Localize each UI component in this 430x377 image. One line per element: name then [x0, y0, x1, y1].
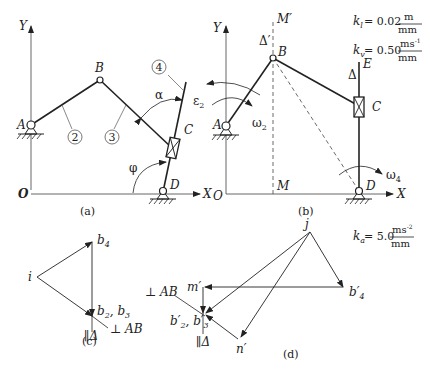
caption-a: (a) — [80, 205, 95, 218]
scale-ka: ka = 5.0 ms-2 mm — [353, 223, 414, 249]
vector-i-b23 — [37, 277, 92, 316]
omega2-arc — [212, 98, 252, 106]
link-bc — [273, 58, 359, 106]
link-3-label: 3 — [109, 131, 116, 144]
delta-label: Δ — [348, 68, 357, 82]
svg-text:= 5.0: = 5.0 — [364, 230, 394, 243]
svg-text:⊥ AB: ⊥ AB — [110, 322, 143, 336]
svg-text:b4: b4 — [97, 233, 110, 249]
svg-text:b′2, b′3: b′2, b′3 — [170, 314, 209, 330]
scale-kl: kl = 0.02 m mm — [353, 11, 422, 35]
svg-text:ms-2: ms-2 — [392, 223, 413, 235]
figure-a: Y X O B A C D 2 — [16, 19, 212, 204]
slider-c — [166, 137, 180, 159]
svg-text:mm: mm — [398, 24, 417, 35]
vector-j-np — [241, 232, 310, 337]
perp-ab-line-d — [174, 295, 205, 316]
point-b-b-label: B — [277, 45, 287, 59]
svg-text:kl: kl — [353, 14, 363, 30]
link-4-label: 4 — [156, 61, 163, 74]
eps-label: ε2 — [193, 94, 204, 110]
omega4-label: ω4 — [386, 168, 401, 184]
x-axis-label: X — [202, 187, 212, 201]
origin-b-label: O — [213, 189, 223, 203]
svg-text:b2, b3: b2, b3 — [97, 304, 130, 320]
svg-text:∥Δ: ∥Δ — [196, 335, 210, 349]
x-axis-b-label: X — [396, 187, 406, 201]
svg-text:= 0.50: = 0.50 — [364, 44, 401, 57]
delta-prime-label: Δ′ — [259, 34, 271, 48]
vector-j-b4p — [310, 232, 343, 287]
svg-text:∥Δ: ∥Δ — [84, 329, 98, 343]
svg-text:j: j — [302, 217, 309, 231]
figure-c-velocity-polygon: i b4 b2, b3 ⊥ AB ∥Δ — [28, 233, 143, 343]
caption-d: (d) — [283, 348, 299, 361]
slider-c-b — [354, 97, 364, 117]
figure-b: Y X O M′ M Δ′ B A C D — [193, 12, 406, 204]
point-e-label: E — [362, 57, 372, 71]
link-2-label: 2 — [72, 131, 79, 144]
phi-label: φ — [129, 161, 137, 175]
joint-b — [97, 77, 103, 83]
y-axis-b-label: Y — [213, 21, 222, 35]
svg-text:ms-1: ms-1 — [400, 37, 420, 49]
svg-text:m: m — [404, 11, 414, 22]
vector-j-b23p — [206, 232, 310, 313]
joint-b-b — [270, 55, 276, 61]
svg-text:mm: mm — [398, 52, 417, 63]
svg-text:mm: mm — [391, 238, 410, 249]
svg-text:m′: m′ — [187, 280, 201, 294]
vector-np-b23p — [206, 315, 238, 339]
point-d-label: D — [169, 178, 180, 192]
line-bd — [273, 58, 359, 191]
point-c-b-label: C — [372, 100, 381, 114]
svg-text:n′: n′ — [236, 342, 247, 356]
svg-text:b′4: b′4 — [349, 285, 365, 301]
link-4 — [163, 82, 186, 192]
mechanism-diagram: Y X O B A C D 2 — [0, 0, 430, 377]
point-d-b-label: D — [365, 179, 376, 193]
omega2-label: ω2 — [252, 116, 267, 132]
origin-label: O — [18, 187, 29, 201]
link-2 — [31, 80, 100, 125]
svg-text:⊥ AB: ⊥ AB — [145, 285, 178, 299]
y-axis-label: Y — [19, 19, 28, 33]
point-c-label: C — [184, 123, 193, 137]
point-b-label: B — [94, 61, 104, 75]
omega4-arc — [339, 166, 382, 175]
point-mp-label: M′ — [276, 12, 292, 26]
point-m-label: M — [276, 179, 290, 193]
vector-i-b4 — [37, 242, 92, 277]
svg-text:= 0.02: = 0.02 — [364, 15, 401, 28]
link-ab — [226, 58, 273, 126]
point-a-label: A — [16, 118, 26, 132]
alpha-label: α — [155, 88, 163, 102]
figure-d-acceleration-polygon: j b′4 m′ b′2, b′3 n′ ⊥ AB ∥Δ — [145, 217, 365, 356]
point-a-b-label: A — [212, 118, 222, 132]
svg-text:i: i — [28, 270, 32, 284]
